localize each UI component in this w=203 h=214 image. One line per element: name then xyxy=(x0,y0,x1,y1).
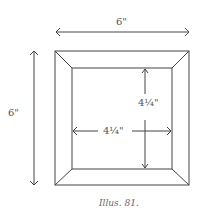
left-dimension-label: 6" xyxy=(8,107,19,118)
left-dimension-arrow xyxy=(30,51,38,185)
outer-frame xyxy=(55,51,189,185)
top-dimension-label: 6" xyxy=(116,16,127,27)
inner-vertical-label: 4¼" xyxy=(138,97,159,108)
inner-vertical-arrow xyxy=(142,69,148,168)
frame-diagram: 6" 6" 4¼" 4¼" Illus. 81. xyxy=(0,0,203,214)
miter-joints xyxy=(55,51,189,185)
figure-caption: Illus. 81. xyxy=(98,198,139,208)
top-dimension-arrow xyxy=(56,28,189,36)
inner-opening xyxy=(72,68,172,169)
inner-horizontal-label: 4¼" xyxy=(103,125,124,136)
